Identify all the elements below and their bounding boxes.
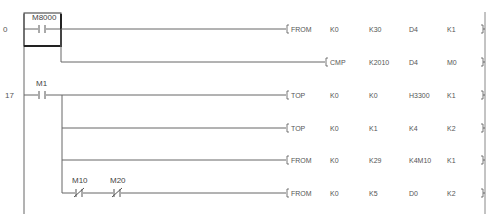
instruction-operand: H3300 [409,92,430,99]
contact-m8000[interactable]: M8000 [24,13,61,33]
instruction-operand: K0 [330,157,339,164]
instruction-mnemonic: FROM [291,26,312,33]
left-bracket [287,189,289,197]
instruction-operand: K1 [447,92,456,99]
right-bracket [481,58,483,66]
instruction-operand: K2 [447,125,456,132]
instruction-from[interactable]: FROMK0K30D4K1 [287,25,485,33]
instruction-operand: K2010 [369,59,389,66]
ladder-diagram: 0 17 M8000 M1 M10 M20 [0,0,501,221]
instruction-operand: K1 [447,26,456,33]
right-bracket [481,124,483,132]
instruction-operand: K0 [330,125,339,132]
instruction-operand: K30 [369,26,382,33]
left-bracket [287,91,289,99]
contact-label: M10 [72,176,88,185]
left-bracket [287,124,289,132]
instruction-operand: K4 [409,125,418,132]
contact-m10[interactable]: M10 [72,176,88,197]
left-bracket [287,25,289,33]
contact-label: M8000 [32,13,57,22]
contact-m1[interactable]: M1 [24,79,62,99]
instruction-operand: K0 [330,92,339,99]
instruction-operand: K0 [369,92,378,99]
instruction-operand: M0 [447,59,457,66]
right-bracket [481,156,483,164]
instruction-operand: K29 [369,157,382,164]
instruction-mnemonic: FROM [291,157,312,164]
step-number: 17 [5,91,14,100]
right-bracket [481,91,483,99]
left-bracket [287,156,289,164]
contact-label: M1 [36,79,48,88]
instruction-operand: K0 [330,190,339,197]
instruction-operand: K2 [447,190,456,197]
step-number: 0 [3,25,8,34]
right-bracket [481,189,483,197]
instruction-operand: K1 [369,125,378,132]
instruction-operand: D0 [409,190,418,197]
right-bracket [481,25,483,33]
contact-m20[interactable]: M20 [110,176,126,197]
instruction-operand: K0 [330,26,339,33]
instruction-mnemonic: TOP [291,125,306,132]
instruction-cmp[interactable]: CMPK2010D4M0 [326,58,485,66]
instruction-operand: K4M10 [409,157,431,164]
instruction-from[interactable]: FROMK0K5D0K2 [287,189,485,197]
instruction-mnemonic: CMP [330,59,346,66]
instruction-mnemonic: FROM [291,190,312,197]
instruction-operand: D4 [409,26,418,33]
instruction-top[interactable]: TOPK0K0H3300K1 [287,91,485,99]
instruction-operand: K5 [369,190,378,197]
instruction-mnemonic: TOP [291,92,306,99]
instruction-operand: K1 [447,157,456,164]
instruction-top[interactable]: TOPK0K1K4K2 [287,124,485,132]
contact-label: M20 [110,176,126,185]
instruction-from[interactable]: FROMK0K29K4M10K1 [287,156,485,164]
left-bracket [326,58,328,66]
instruction-operand: D4 [409,59,418,66]
